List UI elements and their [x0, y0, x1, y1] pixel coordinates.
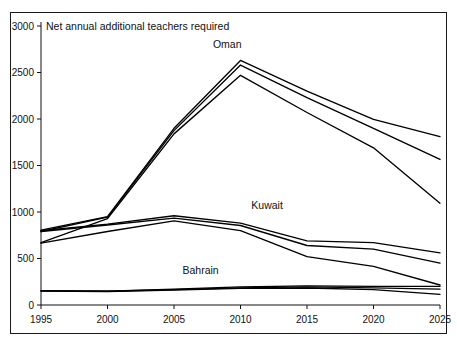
- series-label-bahrain: Bahrain: [182, 264, 218, 276]
- series-line-oman-high: [41, 60, 440, 230]
- x-tick-label-2025: 2025: [429, 314, 452, 325]
- chart-title: Net annual additional teachers required: [46, 20, 229, 32]
- x-tick-label-1995: 1995: [30, 314, 53, 325]
- y-tick-label-3000: 3000: [12, 21, 35, 32]
- chart-figure: 0500100015002000250030001995200020052010…: [0, 0, 457, 345]
- x-tick-label-2000: 2000: [96, 314, 119, 325]
- x-tick-label-2015: 2015: [296, 314, 319, 325]
- x-tick-label-2020: 2020: [362, 314, 385, 325]
- y-tick-label-0: 0: [28, 300, 34, 311]
- series-label-oman: Oman: [213, 38, 242, 50]
- series-label-kuwait: Kuwait: [251, 199, 283, 211]
- line-chart-plot: 0500100015002000250030001995200020052010…: [0, 0, 457, 345]
- x-tick-label-2010: 2010: [229, 314, 252, 325]
- y-tick-label-1000: 1000: [12, 207, 35, 218]
- y-tick-label-1500: 1500: [12, 160, 35, 171]
- series-line-bahrain-low: [41, 288, 440, 294]
- series-line-kuwait-low: [41, 221, 440, 285]
- y-tick-label-500: 500: [17, 253, 34, 264]
- x-tick-label-2005: 2005: [163, 314, 186, 325]
- y-tick-label-2000: 2000: [12, 114, 35, 125]
- series-line-oman-medium: [41, 65, 440, 231]
- y-tick-label-2500: 2500: [12, 67, 35, 78]
